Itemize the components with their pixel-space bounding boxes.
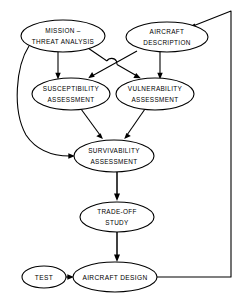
node-mission-threat-analysis[interactable]: MISSION – THREAT ANALYSIS bbox=[21, 20, 105, 52]
node-survivability-assessment-label-line1: SURVIVABILITY bbox=[88, 147, 140, 154]
edge-description-to-susceptibility bbox=[88, 51, 137, 78]
node-trade-off-study-label-line1: TRADE-OFF bbox=[97, 208, 137, 215]
node-aircraft-description-label-line2: DESCRIPTION bbox=[143, 39, 191, 46]
node-survivability-assessment-shape[interactable] bbox=[74, 140, 154, 172]
edge-susceptibility-to-survivability bbox=[81, 109, 103, 139]
edge-tradeoff-to-design bbox=[114, 232, 120, 262]
node-test[interactable]: TEST bbox=[22, 266, 66, 288]
node-susceptibility-assessment-shape[interactable] bbox=[32, 78, 110, 110]
edge-mission-to-susceptibility bbox=[55, 52, 60, 80]
edge-crossing-hop bbox=[107, 58, 117, 64]
node-mission-threat-analysis-label-line2: THREAT ANALYSIS bbox=[32, 38, 94, 45]
survivability-process-flowchart: MISSION – THREAT ANALYSIS AIRCRAFT DESCR… bbox=[0, 0, 247, 305]
edge-survivability-to-tradeoff bbox=[114, 172, 120, 201]
flowchart-canvas: MISSION – THREAT ANALYSIS AIRCRAFT DESCR… bbox=[0, 0, 247, 305]
node-mission-threat-analysis-shape[interactable] bbox=[21, 20, 105, 52]
node-susceptibility-assessment-label-line2: ASSESSMENT bbox=[47, 96, 94, 103]
edge-description-to-vulnerability bbox=[157, 52, 162, 80]
node-trade-off-study[interactable]: TRADE-OFF STUDY bbox=[80, 202, 154, 232]
node-aircraft-description-label-line1: AIRCRAFT bbox=[150, 28, 185, 35]
node-vulnerability-assessment-label-line1: VULNERABILITY bbox=[128, 85, 183, 92]
node-aircraft-design-label: AIRCRAFT DESIGN bbox=[82, 274, 147, 281]
node-survivability-assessment-label-line2: ASSESSMENT bbox=[90, 158, 137, 165]
node-vulnerability-assessment[interactable]: VULNERABILITY ASSESSMENT bbox=[116, 78, 194, 110]
node-aircraft-description[interactable]: AIRCRAFT DESCRIPTION bbox=[126, 22, 208, 52]
node-vulnerability-assessment-shape[interactable] bbox=[116, 78, 194, 110]
nodes-layer: MISSION – THREAT ANALYSIS AIRCRAFT DESCR… bbox=[21, 20, 208, 292]
node-mission-threat-analysis-label-line1: MISSION – bbox=[45, 27, 81, 34]
node-trade-off-study-shape[interactable] bbox=[80, 202, 154, 232]
node-test-label: TEST bbox=[35, 274, 53, 281]
node-survivability-assessment[interactable]: SURVIVABILITY ASSESSMENT bbox=[74, 140, 154, 172]
node-aircraft-description-shape[interactable] bbox=[126, 22, 208, 52]
node-susceptibility-assessment[interactable]: SUSCEPTIBILITY ASSESSMENT bbox=[32, 78, 110, 110]
node-vulnerability-assessment-label-line2: ASSESSMENT bbox=[131, 96, 178, 103]
node-trade-off-study-label-line2: STUDY bbox=[105, 219, 129, 226]
node-susceptibility-assessment-label-line1: SUSCEPTIBILITY bbox=[43, 85, 100, 92]
edge-vulnerability-to-survivability bbox=[124, 109, 145, 139]
node-aircraft-design[interactable]: AIRCRAFT DESIGN bbox=[73, 262, 157, 292]
